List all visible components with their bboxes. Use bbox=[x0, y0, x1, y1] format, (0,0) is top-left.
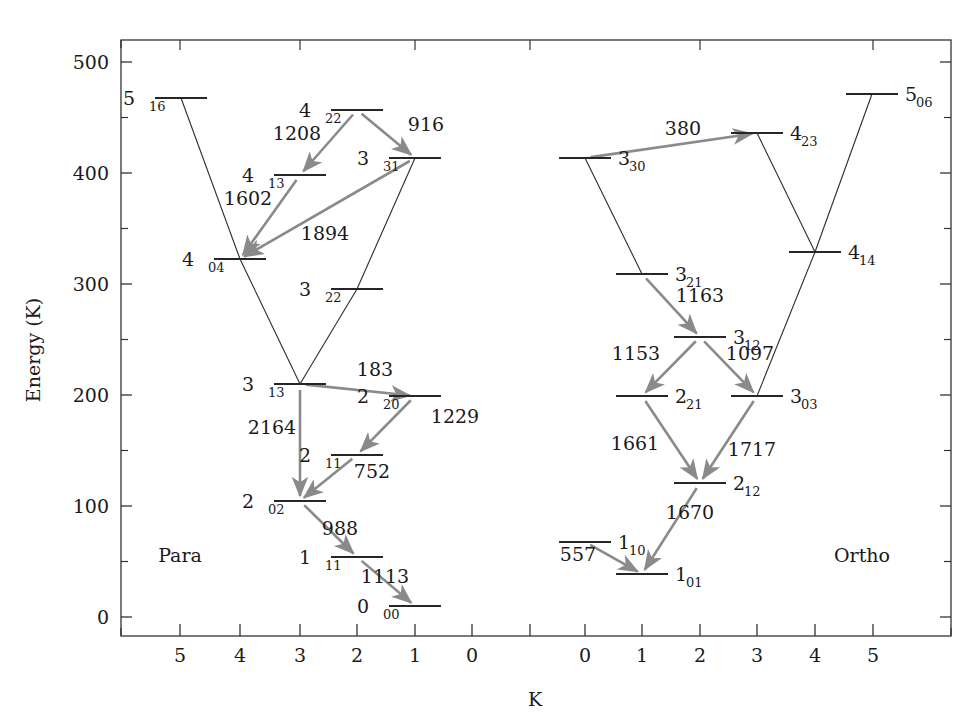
x-tick-label: 4 bbox=[809, 644, 821, 666]
transition-label: 1097 bbox=[726, 342, 774, 364]
level-label: 313 bbox=[242, 373, 285, 400]
level-label: 220 bbox=[357, 385, 400, 412]
x-axis-label: K bbox=[528, 688, 543, 710]
connector-line bbox=[357, 158, 415, 289]
level-label-sub: 01 bbox=[686, 575, 703, 590]
level-label: 110 bbox=[618, 531, 646, 558]
transition-label: 916 bbox=[408, 113, 444, 135]
transition-label: 752 bbox=[354, 460, 390, 482]
y-tick-label: 0 bbox=[97, 606, 109, 628]
level-label: 101 bbox=[675, 563, 703, 590]
transition-label: 1113 bbox=[361, 565, 409, 587]
x-tick-labels: 543210012345 bbox=[174, 644, 879, 666]
level-label: 331 bbox=[357, 147, 400, 174]
level-label-J: 2 bbox=[299, 444, 311, 466]
level-label: 211 bbox=[299, 444, 342, 471]
transition-arrows bbox=[243, 114, 754, 603]
x-tick-label: 2 bbox=[694, 644, 706, 666]
level-label-J: 4 bbox=[182, 248, 194, 270]
transition-label: 1208 bbox=[273, 122, 321, 144]
level-label-sub: 22 bbox=[325, 111, 342, 126]
y-tick-labels: 0100200300400500 bbox=[73, 51, 109, 628]
x-tick-label: 0 bbox=[466, 644, 478, 666]
level-label: 202 bbox=[242, 490, 285, 517]
level-label: 516 bbox=[123, 87, 166, 114]
x-tick-label: 0 bbox=[579, 644, 591, 666]
transition-label: 183 bbox=[357, 358, 393, 380]
level-label-J: 4 bbox=[242, 164, 254, 186]
level-label-J: 4 bbox=[299, 99, 311, 121]
transition-arrow bbox=[362, 114, 412, 155]
y-tick-label: 400 bbox=[73, 162, 109, 184]
x-tick-label: 3 bbox=[751, 644, 763, 666]
plot-border bbox=[121, 40, 951, 636]
level-label-sub: 23 bbox=[801, 134, 818, 149]
level-label-sub: 30 bbox=[629, 159, 646, 174]
plot-frame bbox=[121, 40, 951, 636]
connector-line bbox=[240, 259, 300, 384]
level-label: 000 bbox=[357, 595, 400, 622]
level-label-sub: 02 bbox=[268, 502, 285, 517]
connector-line bbox=[181, 98, 240, 259]
level-label-sub: 00 bbox=[383, 607, 400, 622]
level-label-sub: 16 bbox=[149, 99, 166, 114]
level-label-sub: 12 bbox=[744, 484, 761, 499]
level-lines bbox=[155, 94, 898, 606]
level-label: 414 bbox=[848, 241, 876, 268]
transition-label: 380 bbox=[665, 117, 701, 139]
level-label-J: 3 bbox=[357, 147, 369, 169]
level-label-sub: 14 bbox=[859, 253, 876, 268]
figure-svg: 0100200300400500 543210012345 5164223314… bbox=[0, 0, 970, 726]
level-label: 212 bbox=[733, 472, 761, 499]
level-label-J: 2 bbox=[242, 490, 254, 512]
transition-label: 1602 bbox=[224, 187, 272, 209]
level-label-sub: 11 bbox=[325, 558, 342, 573]
connector-line bbox=[757, 252, 815, 396]
transition-labels: 1208916160218941831229752216498811133801… bbox=[224, 113, 776, 587]
transition-label: 1670 bbox=[666, 501, 714, 523]
level-label-J: 5 bbox=[123, 87, 135, 109]
transition-label: 1163 bbox=[676, 284, 724, 306]
x-tick-label: 4 bbox=[234, 644, 246, 666]
x-tick-label: 5 bbox=[867, 644, 879, 666]
connector-line bbox=[815, 94, 872, 252]
level-label-sub: 11 bbox=[325, 456, 342, 471]
level-label-J: 3 bbox=[299, 278, 311, 300]
level-label-sub: 10 bbox=[629, 543, 646, 558]
level-label: 322 bbox=[299, 278, 342, 305]
branch-label-para: Para bbox=[158, 544, 202, 566]
level-label-sub: 13 bbox=[268, 385, 285, 400]
x-tick-label: 5 bbox=[174, 644, 186, 666]
transition-label: 1661 bbox=[611, 432, 659, 454]
connector-line bbox=[585, 158, 642, 274]
axis-ticks bbox=[121, 40, 951, 636]
x-tick-label: 3 bbox=[294, 644, 306, 666]
y-tick-label: 200 bbox=[73, 384, 109, 406]
level-label-J: 2 bbox=[357, 385, 369, 407]
x-tick-label: 1 bbox=[636, 644, 648, 666]
level-label: 303 bbox=[790, 385, 818, 412]
x-tick-label: 1 bbox=[409, 644, 421, 666]
branch-label-ortho: Ortho bbox=[834, 544, 890, 566]
level-label-sub: 03 bbox=[801, 397, 818, 412]
transition-label: 2164 bbox=[248, 416, 296, 438]
level-label-sub: 20 bbox=[383, 397, 400, 412]
level-label-J: 3 bbox=[242, 373, 254, 395]
level-label: 404 bbox=[182, 248, 225, 275]
level-label-sub: 31 bbox=[383, 159, 400, 174]
level-label-sub: 21 bbox=[686, 397, 703, 412]
level-label: 221 bbox=[675, 385, 703, 412]
transition-label: 1153 bbox=[612, 342, 660, 364]
y-tick-label: 300 bbox=[73, 273, 109, 295]
level-label-sub: 04 bbox=[208, 260, 225, 275]
transition-label: 988 bbox=[322, 517, 358, 539]
level-label: 423 bbox=[790, 122, 818, 149]
level-label: 506 bbox=[905, 83, 933, 110]
level-label-J: 1 bbox=[299, 546, 311, 568]
y-tick-label: 100 bbox=[73, 495, 109, 517]
transition-label: 1717 bbox=[728, 438, 776, 460]
level-label-J: 0 bbox=[357, 595, 369, 617]
transition-label: 557 bbox=[560, 543, 596, 565]
x-tick-label: 2 bbox=[351, 644, 363, 666]
transition-label: 1229 bbox=[431, 405, 479, 427]
